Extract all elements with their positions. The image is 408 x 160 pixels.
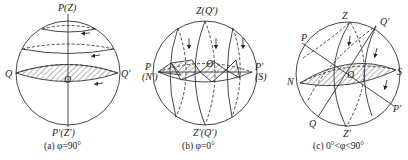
label-q-prime: Q′ (380, 16, 390, 27)
label-q: Q (309, 118, 317, 129)
label-z-prime: Z′ (343, 128, 352, 139)
label-p-prime-z-prime: P′(Z′) (51, 127, 75, 139)
panel-a-sphere (16, 14, 120, 127)
label-q: Q (5, 68, 13, 79)
panel-b-sphere (153, 21, 257, 125)
caption-a: (a) φ=90° (44, 141, 81, 152)
label-s: (S) (255, 71, 267, 83)
label-p-prime: P′ (392, 103, 402, 114)
label-n-prime: (N′) (142, 71, 158, 83)
caption-c: (c) 0°<φ<90° (313, 141, 364, 152)
label-s: S (397, 66, 402, 77)
label-z: Z (342, 10, 348, 21)
celestial-sphere-figure: P(Z) P′(Z′) Q Q′ O (a) φ=90° Z(Q′) Z′(Q′… (0, 0, 408, 160)
label-o: O (64, 74, 71, 85)
label-o: O (206, 58, 213, 69)
label-n: N (286, 76, 295, 87)
label-p: P (300, 32, 307, 43)
label-o: O (347, 69, 354, 80)
label-z-q-prime: Z(Q′) (196, 5, 218, 17)
label-z-prime-q-prime: Z′(Q′) (193, 127, 217, 139)
label-p-z: P(Z) (57, 2, 77, 14)
label-q-prime: Q′ (121, 68, 131, 79)
caption-b: (b) φ=0° (182, 141, 215, 152)
